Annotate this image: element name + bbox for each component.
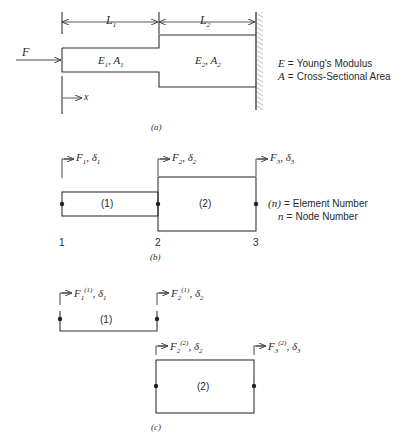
caption-b: (b) (150, 252, 161, 262)
dimension-label-l2: L2 (200, 14, 210, 29)
node-1-dot (60, 202, 64, 206)
node-2-dot (156, 202, 160, 206)
caption-a: (a) (151, 122, 162, 132)
element-2-label: (2) (199, 199, 211, 209)
force-label-node-2: F2, δ2 (172, 152, 196, 166)
element-2-label-c: (2) (197, 382, 209, 392)
legend-node-number: n = Node Number (278, 211, 358, 222)
wall-hatching (257, 12, 263, 110)
node-3-dot (254, 202, 258, 206)
node-label-2: 2 (155, 238, 161, 248)
force-label-c-node-3: F3(2), δ3 (268, 340, 301, 355)
caption-c: (c) (151, 422, 161, 432)
force-label-c-node-2-el2: F2(2), δ2 (170, 340, 203, 355)
dimension-label-l1: L1 (106, 14, 116, 29)
node-label-3: 3 (253, 238, 259, 248)
node-label-1: 1 (59, 238, 65, 248)
segment-2-properties: E2, A2 (195, 55, 221, 69)
force-label-node-1: F1, δ1 (76, 152, 100, 166)
legend-element-number: (n) = Element Number (268, 198, 368, 209)
x-axis-label: x (84, 92, 88, 102)
segment-1-properties: E1, A1 (98, 55, 124, 69)
force-label-c-node-2-el1: F2(1), δ2 (171, 287, 204, 302)
element-1-label-c: (1) (100, 315, 112, 325)
stepped-bar (62, 35, 256, 87)
legend-youngs-modulus: E = Young's Modulus (278, 58, 372, 69)
legend-cross-sectional-area: A = Cross-Sectional Area (278, 71, 391, 82)
element-1-label: (1) (101, 199, 113, 209)
force-label-f: F (22, 46, 29, 58)
force-label-c-node-1: F1(1), δ1 (74, 287, 107, 302)
force-label-node-3: F3, δ3 (270, 152, 294, 166)
